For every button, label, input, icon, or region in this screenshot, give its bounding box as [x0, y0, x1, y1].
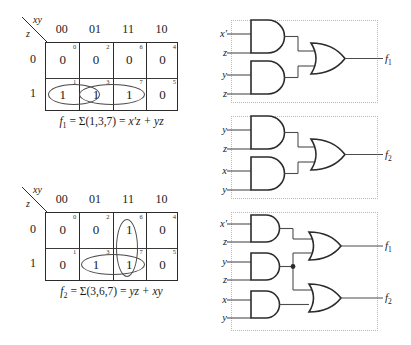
equation-expression: x′z + yz [128, 115, 163, 127]
cell-index: 2 [106, 213, 109, 221]
figure-root: xy z 00 01 11 10 0 1 0 0 2 0 6 0 [0, 0, 411, 345]
cell-index: 4 [173, 213, 176, 221]
and-gate-2 [251, 253, 280, 280]
circuit-f1: x′ z y z [205, 14, 411, 110]
circuit-shared-output-label-f1: f1 [385, 239, 392, 256]
cell-index: 1 [73, 248, 76, 256]
or-gate-1 [311, 139, 345, 170]
cell-index: 5 [173, 78, 176, 86]
equation-minterms: Σ(3,6,7) [80, 285, 117, 297]
kmap-f2-cell-5: 5 0 [146, 248, 179, 283]
cell-value: 0 [79, 52, 112, 67]
kmap-f1-grid: 0 0 2 0 6 0 4 0 1 1 3 1 [45, 42, 178, 111]
cell-index: 6 [140, 43, 143, 51]
kmap-f2-cell-0: 0 0 [46, 213, 79, 248]
kmap-f2-row-header-1: 1 [26, 256, 40, 270]
cell-index: 7 [140, 78, 143, 86]
cell-index: 0 [73, 213, 76, 221]
kmap-f1-col-header-3: 10 [145, 22, 178, 36]
circuit-f2-schematic [205, 110, 411, 206]
kmap-f1-cell-6: 6 0 [113, 43, 146, 78]
cell-value: 0 [79, 222, 112, 237]
cell-index: 5 [173, 248, 176, 256]
equation-expression: yz + xy [129, 285, 162, 297]
circuit-shared-junction-dot [291, 264, 296, 269]
cell-value: 0 [146, 52, 179, 67]
kmap-f2-row-header-0: 0 [26, 222, 40, 236]
kmap-f1-row-header-0: 0 [26, 52, 40, 66]
and-gate-1 [251, 215, 280, 242]
kmap-f1-col-header-1: 01 [78, 22, 111, 36]
kmap-f1-col-header-2: 11 [112, 22, 145, 36]
cell-value: 0 [146, 257, 179, 272]
output-sub: 2 [388, 154, 392, 163]
circuit-f2: y z x y [205, 110, 411, 206]
kmap-f1-z-label: z [26, 28, 30, 39]
kmap-f2: xy z 00 01 11 10 0 1 0 0 2 0 6 1 [0, 170, 223, 310]
kmap-f2-cell-4: 4 0 [146, 213, 179, 248]
kmap-f1-cell-0: 0 0 [46, 43, 79, 78]
kmap-f2-cell-2: 2 0 [79, 213, 112, 248]
kmap-f2-z-label: z [26, 198, 30, 209]
kmap-f1-group-yz [79, 84, 145, 105]
output-sub: 1 [388, 245, 392, 254]
cell-value: 0 [146, 222, 179, 237]
equation-sub: 2 [64, 291, 68, 300]
and-gate-2 [251, 61, 285, 94]
kmap-f2-col-header-1: 01 [78, 192, 111, 206]
cell-value: 0 [113, 52, 146, 67]
and-gate-3 [251, 291, 280, 318]
and-gate-2 [251, 157, 285, 190]
kmap-f2-col-header-0: 00 [45, 192, 78, 206]
circuit-f2-output-label: f2 [385, 148, 392, 165]
cell-value: 0 [146, 87, 179, 102]
kmap-f2-equation: f2 = Σ(3,6,7) = yz + xy [0, 284, 223, 303]
kmap-f1-row-header-1: 1 [26, 86, 40, 100]
cell-index: 0 [73, 43, 76, 51]
circuit-f1-output-label: f1 [385, 52, 392, 69]
output-sub: 1 [388, 58, 392, 67]
circuit-shared-output-label-f2: f2 [385, 291, 392, 308]
kmap-f1: xy z 00 01 11 10 0 1 0 0 2 0 6 0 [0, 0, 223, 140]
kmap-f1-equation: f1 = Σ(1,3,7) = x′z + yz [0, 114, 223, 133]
kmap-f1-cell-5: 5 0 [146, 78, 179, 113]
kmap-f2-xy-label: xy [33, 184, 42, 195]
cell-index: 6 [140, 213, 143, 221]
and-gate-1 [251, 116, 285, 149]
kmap-f2-group-yz [81, 254, 145, 275]
kmap-f1-cell-4: 4 0 [146, 43, 179, 78]
kmap-f1-xy-label: xy [33, 14, 42, 25]
cell-value: 0 [46, 222, 79, 237]
cell-index: 7 [140, 248, 143, 256]
or-gate-1 [311, 43, 345, 74]
cell-index: 2 [106, 43, 109, 51]
equation-sub: 1 [63, 121, 67, 130]
kmap-f2-col-header-3: 10 [145, 192, 178, 206]
and-gate-1 [251, 20, 285, 53]
kmap-f2-col-header-2: 11 [112, 192, 145, 206]
cell-value: 0 [46, 52, 79, 67]
cell-index: 4 [173, 43, 176, 51]
kmap-f2-grid: 0 0 2 0 6 1 4 0 1 0 3 1 [45, 212, 178, 281]
output-sub: 2 [388, 297, 392, 306]
circuit-shared-schematic [205, 206, 411, 338]
kmap-f1-cell-2: 2 0 [79, 43, 112, 78]
circuit-f1-schematic [205, 14, 411, 110]
cell-value: 0 [46, 257, 79, 272]
kmap-f2-cell-1: 1 0 [46, 248, 79, 283]
circuit-shared: x′ z y z x y [205, 206, 411, 338]
or-gate-1 [309, 232, 341, 260]
equation-minterms: Σ(1,3,7) [79, 115, 116, 127]
kmap-f1-col-header-0: 00 [45, 22, 78, 36]
